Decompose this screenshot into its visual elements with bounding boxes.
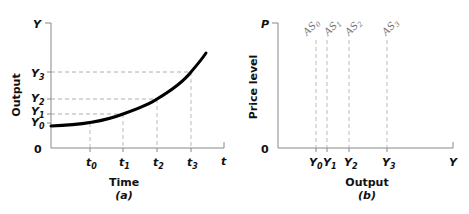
panel-a-caption: (a) [115,189,132,202]
panel-b-caption: (b) [358,189,376,202]
as3-label: AS3 [379,16,402,39]
panel-a-vertical-guides [90,72,191,148]
panel-b-ticks [316,148,387,152]
diagram-canvas: Y t 0 Y3 Y2 Y1 Y0 t0 t1 t2 t3 Output Tim… [0,0,469,214]
panel-a-y-tick-labels: Y3 Y2 Y1 Y0 [31,67,45,131]
panel-b-y-axis-symbol: P [261,18,269,31]
as0-label: AS0 [300,16,323,39]
panel-b-x-axis-title: Output [345,176,388,189]
panel-a-horizontal-guides [51,72,191,114]
x-tick-label-t0: t0 [86,156,97,171]
panel-a-ticks [47,72,191,152]
panel-a-origin: 0 [34,143,42,156]
panel-b-as-lines [316,40,387,148]
panel-b-x-axis-symbol: Y [449,156,458,169]
panel-b-y-axis-title: Price level [247,55,260,120]
x-tick-label-t1: t1 [119,156,130,171]
as1-label: AS1 [321,17,344,40]
as2-label: AS2 [342,16,365,39]
output-growth-curve [51,53,206,126]
panel-b-as-labels: AS0 AS1 AS2 AS3 [300,16,402,39]
x-tick-label-y0: Y0 [309,156,323,171]
panel-b-aggregate-supply: AS0 AS1 AS2 AS3 P Y 0 Y0 Y1 Y2 Y3 Price … [247,16,458,202]
x-tick-label-y3: Y3 [382,156,396,171]
x-tick-label-y1: Y1 [323,156,337,171]
panel-a-x-axis-symbol: t [221,155,227,168]
panel-a-y-axis-title: Output [10,73,23,116]
x-tick-label-t2: t2 [153,156,164,171]
panel-a-x-axis-title: Time [109,176,139,189]
x-tick-label-y2: Y2 [344,156,358,171]
panel-b-x-tick-labels: Y0 Y1 Y2 Y3 [309,156,396,171]
panel-a-y-axis-symbol: Y [33,18,42,31]
x-tick-label-t3: t3 [187,156,198,171]
panel-b-origin: 0 [261,143,269,156]
y-tick-label-y3: Y3 [31,67,45,82]
panel-a-growth-curve: Y t 0 Y3 Y2 Y1 Y0 t0 t1 t2 t3 Output Tim… [10,18,227,202]
panel-a-x-tick-labels: t0 t1 t2 t3 [86,156,198,171]
